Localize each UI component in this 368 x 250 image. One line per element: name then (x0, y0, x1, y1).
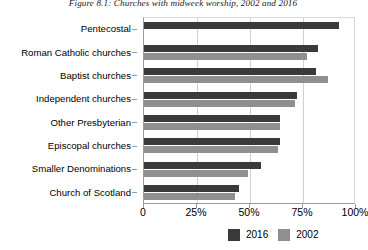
bar-2016 (144, 92, 297, 99)
legend-label: 2002 (296, 229, 318, 241)
bar-group (144, 65, 356, 88)
bar-group (144, 41, 356, 64)
bar-group (144, 112, 356, 135)
bar-2016 (144, 68, 316, 75)
bar-group (144, 158, 356, 181)
bar-2016 (144, 162, 261, 169)
category-label: Baptist churches (60, 64, 131, 87)
category-tick (132, 29, 137, 30)
legend-swatch-icon (228, 229, 240, 241)
category-tick (132, 192, 137, 193)
category-tick (132, 75, 137, 76)
x-tick-mark (302, 204, 303, 208)
category-tick (132, 169, 137, 170)
category-tick (132, 146, 137, 147)
x-tick-mark (143, 204, 144, 208)
legend-swatch-icon (278, 229, 290, 241)
bar-2002 (144, 53, 307, 60)
bar-2002 (144, 123, 280, 130)
category-label: Episcopal churches (48, 134, 131, 157)
bar-group (144, 18, 356, 41)
category-tick (132, 52, 137, 53)
chart-legend: 20162002 (228, 229, 319, 241)
category-label: Smaller Denominations (32, 157, 131, 180)
legend-label: 2016 (246, 229, 268, 241)
bar-group (144, 182, 356, 205)
category-label: Other Presbyterian (50, 111, 131, 134)
x-tick-mark (249, 204, 250, 208)
category-label: Church of Scotland (49, 181, 131, 204)
bar-2016 (144, 115, 280, 122)
category-axis-labels: PentecostalRoman Catholic churchesBaptis… (0, 17, 137, 204)
bar-group (144, 135, 356, 158)
bar-2002 (144, 100, 295, 107)
bar-2016 (144, 45, 318, 52)
chart-title: Figure 8.1: Churches with midweek worshi… (0, 0, 366, 9)
category-tick (132, 99, 137, 100)
category-label: Independent churches (36, 87, 131, 110)
x-tick-mark (355, 204, 356, 208)
value-axis-labels: 025%50%75%100% (0, 206, 366, 222)
legend-item-2002: 2002 (278, 229, 318, 241)
bar-2016 (144, 138, 280, 145)
bar-2002 (144, 170, 248, 177)
bar-2002 (144, 76, 328, 83)
legend-item-2016: 2016 (228, 229, 268, 241)
plot-area (143, 17, 355, 204)
bar-2016 (144, 22, 339, 29)
bar-group (144, 88, 356, 111)
bar-2002 (144, 146, 278, 153)
category-tick (132, 122, 137, 123)
bar-2016 (144, 185, 239, 192)
x-tick-mark (196, 204, 197, 208)
category-label: Pentecostal (81, 17, 131, 40)
bar-2002 (144, 193, 235, 200)
category-label: Roman Catholic churches (21, 40, 131, 63)
